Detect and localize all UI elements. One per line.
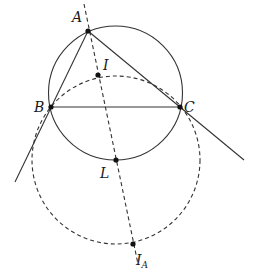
label-C: C [184,99,195,115]
label-subscript: A [141,260,149,270]
point-I [95,72,100,77]
point-L [113,157,118,162]
point-A [85,28,90,33]
point-B [48,104,53,109]
label-I: I [102,57,109,73]
point-IA [130,241,135,246]
label-A: A [70,9,82,25]
geometry-diagram: ABCILIA [0,0,253,274]
angle-bisector-A [84,4,138,264]
label-L: L [99,165,109,181]
point-C [177,104,182,109]
label-IA: IA [135,252,149,270]
line-AC [88,31,244,160]
label-B: B [33,99,44,115]
